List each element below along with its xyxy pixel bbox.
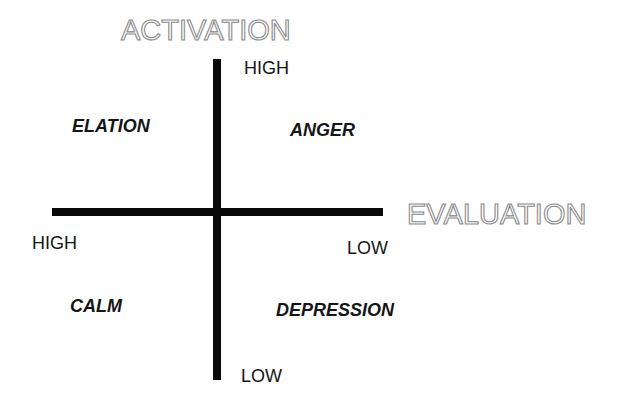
evaluation-axis-title: EVALUATION xyxy=(407,200,586,229)
vertical-axis-line xyxy=(213,59,221,380)
activation-high-label: HIGH xyxy=(244,59,289,77)
evaluation-high-label: HIGH xyxy=(32,234,77,252)
evaluation-low-label: LOW xyxy=(347,239,388,257)
horizontal-axis-line xyxy=(52,208,383,216)
activation-low-label: LOW xyxy=(241,367,282,385)
quadrant-calm: CALM xyxy=(70,297,122,315)
quadrant-anger: ANGER xyxy=(290,121,355,139)
quadrant-depression: DEPRESSION xyxy=(276,301,394,319)
activation-axis-title: ACTIVATION xyxy=(121,16,291,45)
quadrant-elation: ELATION xyxy=(72,117,150,135)
